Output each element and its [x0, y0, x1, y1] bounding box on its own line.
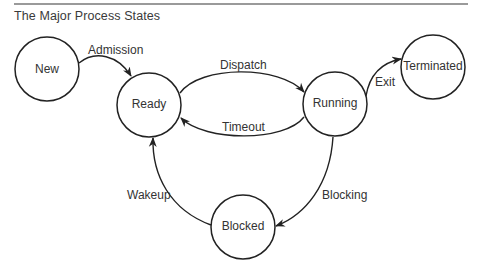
state-diagram: Admission Dispatch Timeout Exit Blocking… — [0, 0, 479, 271]
node-label-blocked: Blocked — [222, 219, 265, 233]
edge-wakeup — [153, 138, 211, 225]
edge-label-blocking: Blocking — [322, 188, 367, 202]
edge-label-wakeup: Wakeup — [127, 188, 171, 202]
node-terminated: Terminated — [401, 35, 465, 99]
node-label-ready: Ready — [132, 97, 167, 111]
node-label-terminated: Terminated — [403, 59, 462, 73]
edge-admission — [79, 56, 131, 76]
edge-label-dispatch: Dispatch — [220, 58, 267, 72]
node-label-running: Running — [313, 96, 358, 110]
node-new: New — [15, 37, 79, 101]
edge-label-admission: Admission — [88, 43, 143, 57]
edge-dispatch — [180, 72, 304, 93]
edge-label-exit: Exit — [375, 75, 396, 89]
node-label-new: New — [35, 62, 59, 76]
edge-blocking — [276, 137, 333, 226]
node-blocked: Blocked — [211, 195, 275, 259]
node-ready: Ready — [117, 73, 181, 137]
node-running: Running — [303, 72, 367, 136]
edge-label-timeout: Timeout — [222, 120, 266, 134]
